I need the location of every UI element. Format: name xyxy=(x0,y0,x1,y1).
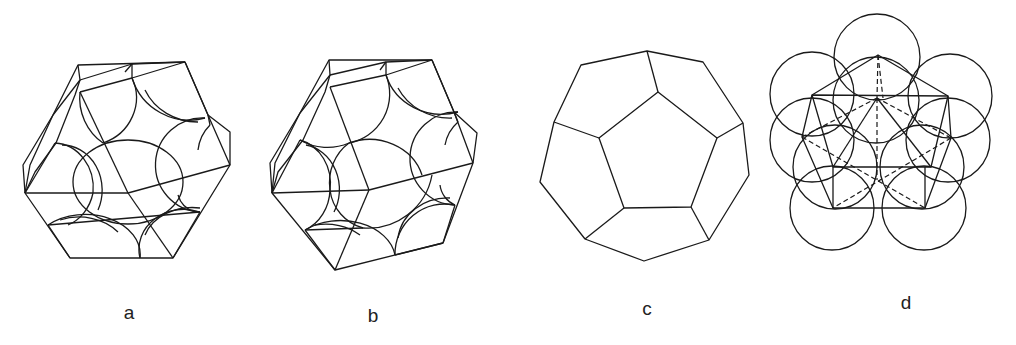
panel-label-c: c xyxy=(632,298,662,320)
figure-canvas xyxy=(0,0,1016,345)
panel-label-b: b xyxy=(358,305,388,327)
panel-d-drawing xyxy=(770,14,992,250)
panel-b-drawing xyxy=(270,60,477,270)
panel-label-d: d xyxy=(891,292,921,314)
panel-c-drawing xyxy=(540,51,749,261)
panel-label-a: a xyxy=(114,302,144,324)
panel-a-drawing xyxy=(23,62,230,258)
